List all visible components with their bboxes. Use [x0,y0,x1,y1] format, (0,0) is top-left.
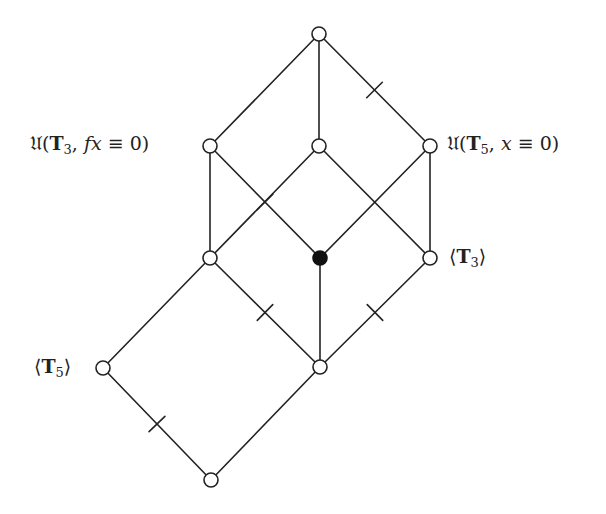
edge-top-A [210,34,319,146]
fraktur-u-hat: 𝔘 [30,134,42,153]
open-node-A [203,139,217,153]
open-node-C [423,139,437,153]
edges-group [103,34,430,480]
nodes-group [96,27,437,487]
open-node-F [423,251,437,265]
lattice-diagram [0,0,606,514]
fraktur-u-hat: 𝔘 [447,134,459,153]
node-label-t3-generated: ⟨T3⟩ [449,247,486,269]
filled-node-E [313,251,327,265]
open-node-L [96,361,110,375]
node-label-u-hat-t5: 𝔘(T5, x ≡ 0) [447,134,559,156]
edge-D-L [103,258,210,368]
open-node-M [204,473,218,487]
open-node-G [313,360,327,374]
open-node-B [312,139,326,153]
ticks-group [149,82,383,431]
edge-G-M [211,367,320,480]
open-node-top [312,27,326,41]
open-node-D [203,251,217,265]
node-label-u-hat-t3: 𝔘(T3, fx ≡ 0) [30,134,149,156]
node-label-t5-generated: ⟨T5⟩ [34,357,71,379]
